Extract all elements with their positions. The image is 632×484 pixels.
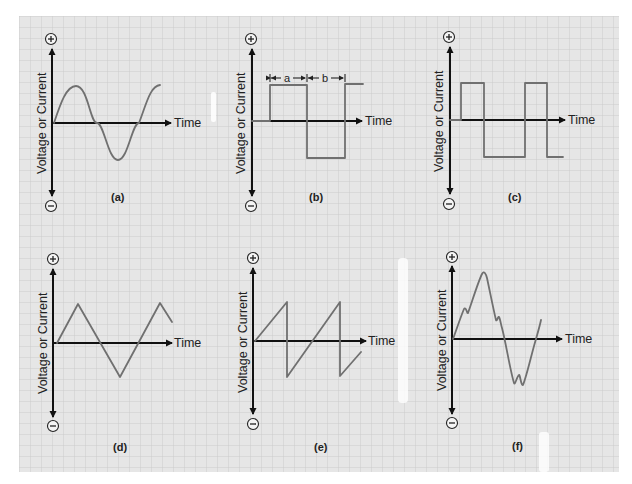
graph-grid bbox=[19, 16, 619, 472]
y-axis-label: Voltage or Current bbox=[36, 292, 50, 394]
panel-label: (c) bbox=[508, 191, 522, 203]
panel-label: (b) bbox=[309, 191, 323, 203]
minus-icon bbox=[48, 421, 59, 432]
svg-text:b: b bbox=[322, 72, 328, 84]
y-axis-label: Voltage or Current bbox=[432, 70, 446, 172]
panel-label: (a) bbox=[111, 191, 125, 203]
plus-icon bbox=[248, 253, 259, 264]
minus-icon bbox=[46, 201, 57, 212]
plus-icon bbox=[444, 32, 455, 43]
minus-icon bbox=[444, 199, 455, 210]
plus-icon bbox=[246, 34, 257, 45]
glare-highlight bbox=[539, 432, 549, 472]
y-axis-label: Voltage or Current bbox=[234, 72, 248, 174]
panel-label: (d) bbox=[113, 441, 127, 453]
x-axis-label: Time bbox=[565, 332, 592, 346]
svg-text:a: a bbox=[284, 72, 291, 84]
x-axis-label: Time bbox=[174, 116, 201, 130]
glare-highlight bbox=[211, 92, 216, 122]
x-axis-label: Time bbox=[568, 113, 595, 127]
plus-icon bbox=[447, 252, 458, 263]
minus-icon bbox=[248, 419, 259, 430]
plus-icon bbox=[46, 34, 57, 45]
y-axis-label: Voltage or Current bbox=[435, 289, 449, 391]
minus-icon bbox=[447, 418, 458, 429]
plus-icon bbox=[48, 254, 59, 265]
y-axis-label: Voltage or Current bbox=[236, 291, 250, 393]
x-axis-label: Time bbox=[365, 114, 392, 128]
x-axis-label: Time bbox=[368, 334, 395, 348]
waveform-figure: Voltage or Current Time (a) Voltage or C… bbox=[0, 0, 632, 484]
minus-icon bbox=[246, 201, 257, 212]
panel-label: (e) bbox=[314, 441, 328, 453]
panel-label: (f) bbox=[512, 440, 523, 452]
y-axis-label: Voltage or Current bbox=[35, 72, 49, 174]
x-axis-label: Time bbox=[174, 336, 201, 350]
glare-highlight bbox=[398, 258, 408, 403]
